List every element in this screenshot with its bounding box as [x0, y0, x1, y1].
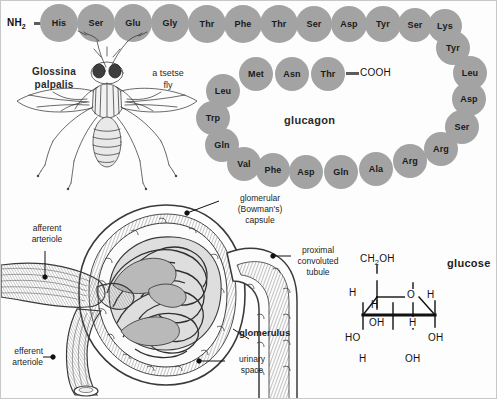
- fly-common-name: a tsetse fly: [137, 67, 199, 91]
- figure-canvas: NH2 HisSerGluGlyThrPheThrSerAspTyrSerLys…: [0, 0, 497, 399]
- amino-acid-residue: Asn: [275, 57, 309, 91]
- annotation-efferent-arteriole: efferent arteriole: [0, 346, 43, 368]
- annotation-urinary-space: urinary space: [227, 354, 277, 376]
- residue-label: Ser: [306, 19, 321, 29]
- amino-acid-residue: Asp: [331, 6, 367, 42]
- tsetse-fly-illustration: Glossina palpalis a tsetse fly: [1, 29, 206, 194]
- residue-label: Gly: [162, 18, 177, 28]
- atom-ch2oh: CH2OH: [360, 253, 395, 267]
- residue-label: Leu: [462, 68, 479, 78]
- residue-label: Lys: [437, 21, 453, 31]
- residue-label: Trp: [206, 113, 221, 123]
- residue-label: Phe: [234, 19, 251, 29]
- atom-h-top-left: H: [349, 287, 356, 298]
- residue-label: Tyr: [376, 19, 390, 29]
- annotation-proximal-convoluted-tubule: proximal convoluted tubule: [287, 245, 349, 278]
- glucose-label: glucose: [447, 257, 491, 269]
- residue-label: Asp: [297, 167, 315, 177]
- residue-label: Phe: [264, 165, 281, 175]
- atom-oh-bottom: OH: [405, 353, 420, 364]
- amino-acid-residue: Arg: [393, 144, 427, 178]
- atom-h-mid-right: H: [408, 317, 417, 328]
- residue-label: Gln: [333, 167, 349, 177]
- residue-label: Thr: [320, 69, 335, 79]
- atom-h-inner-left: H: [371, 299, 378, 310]
- residue-label: Ala: [369, 164, 384, 174]
- fly-drawing: [1, 29, 206, 194]
- amino-acid-residue: Asp: [289, 155, 323, 189]
- annotation-glomerulus: glomerulus: [239, 327, 290, 338]
- residue-label: Asp: [460, 94, 478, 104]
- residue-label: Met: [248, 69, 264, 79]
- c-terminus-label: COOH: [360, 67, 391, 78]
- amino-acid-residue: Met: [239, 57, 273, 91]
- amino-acid-residue: Arg: [424, 132, 458, 166]
- atom-ho-left: HO: [345, 332, 360, 343]
- fly-genus: Glossina: [9, 65, 99, 78]
- amino-acid-residue: Thr: [311, 57, 345, 91]
- amino-acid-residue: Thr: [260, 5, 298, 43]
- residue-label: Thr: [271, 19, 286, 29]
- annotation-glomerular-capsule: glomerular (Bowman's) capsule: [219, 193, 301, 226]
- residue-label: Asn: [283, 69, 301, 79]
- fly-scientific-name: Glossina palpalis: [9, 65, 99, 91]
- amino-acid-residue: Ala: [359, 152, 393, 186]
- atom-oh-right: OH: [428, 332, 443, 343]
- residue-label: Ser: [454, 122, 469, 132]
- amino-acid-residue: Gln: [324, 155, 358, 189]
- c-terminus-bond: [346, 72, 359, 75]
- residue-label: His: [52, 18, 67, 28]
- glucose-haworth-drawing: [357, 257, 497, 367]
- residue-label: Ser: [88, 18, 103, 28]
- residue-label: Arg: [433, 144, 449, 154]
- residue-label: Arg: [402, 156, 418, 166]
- amino-acid-residue: Leu: [206, 74, 240, 108]
- atom-h-bottom-left: H: [359, 353, 366, 364]
- residue-label: Tyr: [446, 43, 460, 53]
- residue-label: Asp: [340, 19, 358, 29]
- atom-ring-oxygen: O: [405, 289, 417, 300]
- fly-species: palpalis: [9, 78, 99, 91]
- residue-label: Thr: [199, 19, 214, 29]
- residue-label: Glu: [125, 18, 141, 28]
- amino-acid-residue: Phe: [256, 153, 290, 187]
- glucagon-label: glucagon: [284, 114, 335, 126]
- residue-label: Ser: [407, 20, 422, 30]
- residue-label: Leu: [215, 86, 232, 96]
- amino-acid-residue: Ser: [296, 6, 332, 42]
- amino-acid-residue: Phe: [224, 5, 262, 43]
- amino-acid-residue: Ser: [398, 8, 432, 42]
- residue-label: Gln: [214, 140, 230, 150]
- residue-label: Val: [237, 159, 251, 169]
- annotation-afferent-arteriole: afferent arteriole: [17, 223, 77, 245]
- amino-acid-residue: Tyr: [365, 6, 401, 42]
- glomerulus-illustration: glomerular (Bowman's) capsule afferent a…: [1, 189, 301, 399]
- atom-h-top-right: H: [427, 289, 434, 300]
- glucose-structure: CH2OH H H O H OH H HO OH H OH glucose: [357, 257, 497, 367]
- atom-oh-upper-left: OH: [368, 317, 385, 328]
